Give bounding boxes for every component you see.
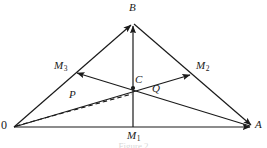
point-label-M2-base: M bbox=[196, 59, 205, 71]
point-label-M3-base: M bbox=[54, 59, 63, 71]
vector-label-P: P bbox=[69, 89, 76, 100]
vector-label-Q: Q bbox=[152, 83, 160, 94]
point-label-M1-base: M bbox=[127, 129, 136, 141]
median-A-M3 bbox=[77, 73, 250, 126]
point-label-M3: M3 bbox=[54, 60, 67, 72]
figure-canvas bbox=[0, 0, 267, 148]
point-label-M2-subscript: 2 bbox=[205, 64, 209, 73]
point-label-O: 0 bbox=[1, 119, 7, 131]
centroid-point-C bbox=[131, 86, 135, 90]
point-label-A: A bbox=[255, 119, 262, 130]
figure-caption: Figure 2 bbox=[0, 141, 267, 148]
point-label-B: B bbox=[129, 2, 136, 13]
point-label-M2: M2 bbox=[196, 60, 209, 72]
point-label-M3-subscript: 3 bbox=[63, 64, 67, 73]
point-label-C: C bbox=[135, 74, 142, 85]
side-BA bbox=[134, 24, 251, 125]
side-OB bbox=[14, 25, 131, 127]
geometry-figure: 0 A B C M1 M2 M3 P Q Figure 2 bbox=[0, 0, 267, 148]
